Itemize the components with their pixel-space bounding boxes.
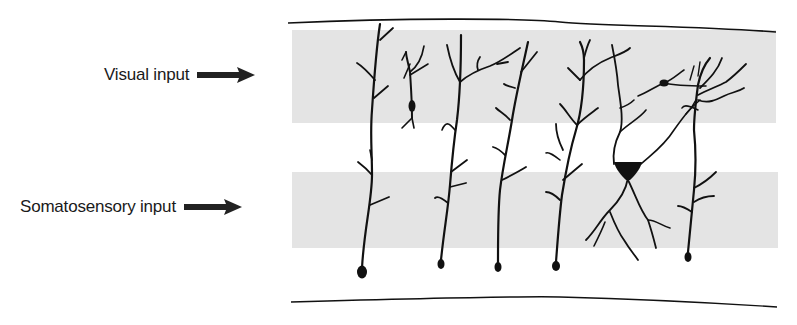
arrow-right-icon (197, 67, 255, 83)
visual-input-band (292, 30, 776, 123)
visual-input-text: Visual input (104, 65, 189, 85)
somatosensory-input-text: Somatosensory input (20, 197, 176, 217)
visual-input-label: Visual input (104, 65, 255, 85)
cortex-diagram (0, 0, 797, 325)
neuron-1-soma (357, 266, 367, 279)
arrow-right-icon (184, 199, 242, 215)
neuron-3-soma (438, 259, 445, 269)
bottom-boundary-line (291, 297, 777, 307)
neuron-5-soma (552, 261, 560, 271)
neuron-2-soma (409, 100, 416, 112)
neuron-8-soma (685, 252, 692, 262)
neuron-4-soma (495, 262, 502, 272)
neuron-7-soma (660, 80, 669, 87)
somatosensory-input-label: Somatosensory input (20, 197, 242, 217)
